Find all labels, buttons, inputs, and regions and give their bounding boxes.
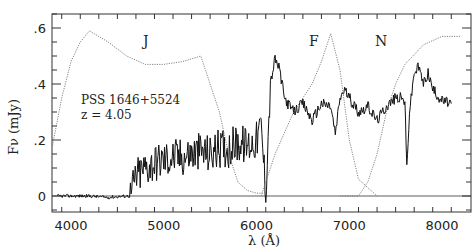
band-label-n: N [375,33,387,49]
y-tick-label: 0 [38,189,46,204]
band-label-f: F [309,33,319,49]
x-tick-label: 5000 [147,218,180,233]
axis-labels: 400050006000700080000.2.4.6 [34,21,459,233]
spectrum-chart: 400050006000700080000.2.4.6 J F N PSS 16… [0,0,472,249]
y-tick-label: .4 [34,77,46,92]
redshift-label: z = 4.05 [81,108,132,122]
x-tick-label: 7000 [333,218,366,233]
series-spectrum [57,55,451,202]
y-tick-label: .2 [34,133,46,148]
x-tick-label: 6000 [240,218,273,233]
y-axis-title: Fν (mJy) [6,99,21,155]
y-tick-label: .6 [34,21,46,36]
object-name: PSS 1646+5524 [81,93,181,107]
x-tick-label: 4000 [54,218,87,233]
x-axis-title: λ (Å) [248,233,280,248]
band-label-j: J [141,33,149,49]
x-tick-label: 8000 [425,218,458,233]
